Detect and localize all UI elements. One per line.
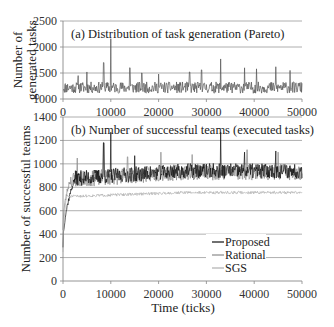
panel-title: (b) Number of successful teams (executed… xyxy=(71,123,314,137)
y-tick-label: 600 xyxy=(39,204,57,218)
y-axis-label-line1: Number of xyxy=(10,31,25,88)
x-tick-label: 40000 xyxy=(239,287,269,301)
series-proposed xyxy=(63,132,302,247)
figure: 1000150020002500010000200003000040000500… xyxy=(0,0,334,327)
y-axis-label-line2: generated tasks xyxy=(24,20,39,100)
x-tick-label: 50000 xyxy=(287,287,317,301)
legend-entry-rational: Rational xyxy=(225,248,266,262)
legend: ProposedRationalSGS xyxy=(206,234,270,275)
legend-entry-sgs: SGS xyxy=(225,261,247,275)
panel-title: (a) Distribution of task generation (Par… xyxy=(71,27,284,41)
x-tick-label: 30000 xyxy=(191,287,221,301)
y-axis-label: Number of successful teams xyxy=(18,126,33,273)
panel-b-successful-teams: 0200400600800100012001400010000200003000… xyxy=(18,110,317,301)
legend-entry-proposed: Proposed xyxy=(225,235,270,249)
y-tick-label: 800 xyxy=(39,180,57,194)
y-tick-label: 1400 xyxy=(33,110,57,124)
x-tick-label: 10000 xyxy=(96,287,126,301)
y-tick-label: 200 xyxy=(39,251,57,265)
y-tick-label: 400 xyxy=(39,227,57,241)
y-tick-label: 0 xyxy=(51,274,57,288)
series-rational xyxy=(63,143,302,230)
x-tick-label: 0 xyxy=(60,287,66,301)
y-tick-label: 1200 xyxy=(33,133,57,147)
y-tick-label: 1000 xyxy=(33,157,57,171)
x-tick-label: 20000 xyxy=(144,287,174,301)
x-axis-label: Time (ticks) xyxy=(151,300,214,315)
panel-a-generated-tasks: 1000150020002500010000200003000040000500… xyxy=(10,14,317,119)
